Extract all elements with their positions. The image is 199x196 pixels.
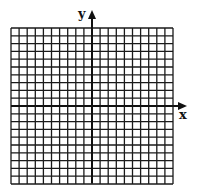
y-axis-label: y [78,7,86,20]
coordinate-grid [0,0,199,196]
x-axis [11,102,187,110]
x-axis-label: x [179,108,187,121]
y-axis-arrow-icon [88,10,96,19]
